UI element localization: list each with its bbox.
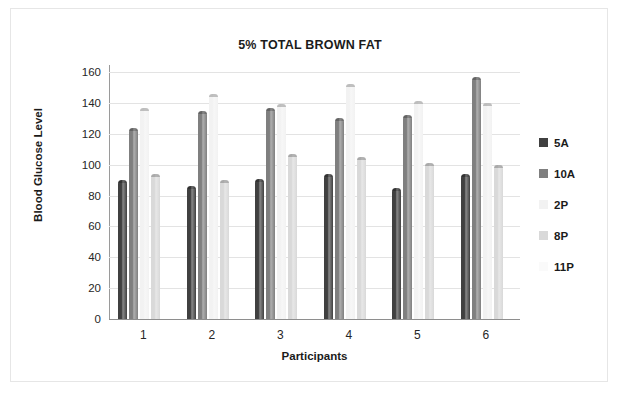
chart-legend: 5A10A2P8P11P	[539, 127, 605, 282]
bar-cap	[425, 163, 434, 166]
bar-cap	[266, 108, 275, 111]
x-axis-title: Participants	[109, 350, 520, 362]
bar-cap	[461, 174, 470, 177]
bar-group: 1	[109, 64, 178, 319]
bar-cap	[392, 188, 401, 191]
bar-10a-p6	[472, 77, 481, 319]
legend-label: 11P	[554, 261, 574, 273]
y-tick-label: 20	[88, 282, 101, 294]
bar-5a-p3	[255, 179, 264, 319]
y-tick-label: 140	[82, 97, 101, 109]
legend-label: 5A	[554, 137, 569, 149]
bar-5a-p2	[187, 186, 196, 319]
bar-cap	[403, 115, 412, 118]
bar-cap	[414, 101, 423, 104]
x-axis-line	[109, 319, 520, 320]
bar-cap	[209, 94, 218, 97]
x-tick-label: 6	[482, 328, 489, 342]
x-tick-label: 4	[345, 328, 352, 342]
bar-cap	[288, 154, 297, 157]
bar-2p-p1	[140, 108, 149, 319]
y-tick-label: 0	[95, 313, 101, 325]
bar-cap	[129, 128, 138, 131]
bar-2p-p2	[209, 94, 218, 319]
bar-group: 2	[178, 64, 247, 319]
bar-5a-p4	[324, 174, 333, 319]
bar-group: 5	[383, 64, 452, 319]
x-tick-label: 5	[414, 328, 421, 342]
legend-swatch-icon	[539, 262, 548, 271]
chart-title: 5% TOTAL BROWN FAT	[11, 38, 609, 52]
bar-2p-p4	[346, 84, 355, 319]
bar-cap	[357, 157, 366, 160]
y-tick-label: 60	[88, 220, 101, 232]
y-tick-label: 80	[88, 190, 101, 202]
y-tick-label: 120	[82, 128, 101, 140]
bar-cap	[187, 186, 196, 189]
bar-group: 4	[315, 64, 384, 319]
legend-item-8p[interactable]: 8P	[539, 220, 605, 251]
bar-cap	[277, 104, 286, 107]
bar-cap	[198, 111, 207, 114]
bar-cap	[118, 180, 127, 183]
legend-item-5a[interactable]: 5A	[539, 127, 605, 158]
bar-10a-p4	[335, 118, 344, 319]
bar-8p-p3	[288, 154, 297, 319]
bar-5a-p5	[392, 188, 401, 319]
legend-swatch-icon	[539, 169, 548, 178]
bar-2p-p6	[483, 103, 492, 319]
bar-cap	[140, 108, 149, 111]
bar-5a-p1	[118, 180, 127, 319]
bar-8p-p6	[494, 165, 503, 319]
bar-cap	[151, 174, 160, 177]
y-tick-label: 160	[82, 66, 101, 78]
x-tick-label: 2	[208, 328, 215, 342]
bar-10a-p1	[129, 128, 138, 319]
screenshot-root: 5% TOTAL BROWN FAT Blood Glucose Level 0…	[0, 0, 620, 401]
bar-8p-p2	[220, 180, 229, 319]
bar-cap	[483, 103, 492, 106]
bar-cap	[494, 165, 503, 168]
legend-label: 2P	[554, 199, 568, 211]
bar-8p-p4	[357, 157, 366, 319]
bar-cap	[220, 180, 229, 183]
bar-10a-p2	[198, 111, 207, 319]
legend-swatch-icon	[539, 200, 548, 209]
bar-5a-p6	[461, 174, 470, 319]
bar-2p-p5	[414, 101, 423, 319]
bar-10a-p3	[266, 108, 275, 319]
legend-item-2p[interactable]: 2P	[539, 189, 605, 220]
legend-label: 10A	[554, 168, 575, 180]
bar-group: 6	[452, 64, 521, 319]
legend-swatch-icon	[539, 138, 548, 147]
bar-cap	[472, 77, 481, 80]
legend-item-11p[interactable]: 11P	[539, 251, 605, 282]
bar-cap	[346, 84, 355, 87]
legend-item-10a[interactable]: 10A	[539, 158, 605, 189]
bar-cap	[255, 179, 264, 182]
bar-cap	[335, 118, 344, 121]
legend-swatch-icon	[539, 231, 548, 240]
y-tick-label: 100	[82, 159, 101, 171]
x-tick-label: 1	[140, 328, 147, 342]
y-axis-title: Blood Glucose Level	[32, 85, 44, 245]
bar-cap	[324, 174, 333, 177]
plot-area: 020406080100120140160123456	[109, 65, 520, 320]
bar-2p-p3	[277, 104, 286, 319]
chart-figure: 5% TOTAL BROWN FAT Blood Glucose Level 0…	[10, 8, 608, 382]
bar-group: 3	[246, 64, 315, 319]
bar-8p-p5	[425, 163, 434, 319]
x-tick-label: 3	[277, 328, 284, 342]
legend-label: 8P	[554, 230, 568, 242]
bar-8p-p1	[151, 174, 160, 319]
y-tick-label: 40	[88, 251, 101, 263]
bar-10a-p5	[403, 115, 412, 319]
